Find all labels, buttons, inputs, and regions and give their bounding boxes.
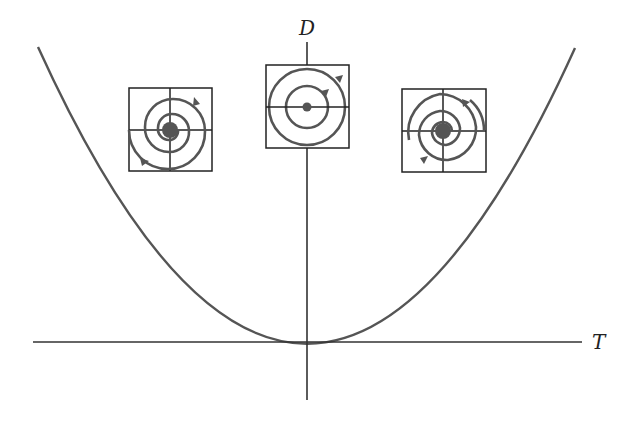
equilibrium-point-icon: [435, 123, 451, 139]
center-portrait: [266, 65, 349, 148]
spiral-sink-portrait: [129, 88, 212, 171]
spiral-source-portrait: [402, 89, 486, 172]
d-axis-label: D: [298, 16, 315, 40]
equilibrium-point-icon: [303, 103, 312, 112]
trace-determinant-diagram: D T: [0, 0, 640, 429]
t-axis-label: T: [592, 330, 607, 354]
equilibrium-point-icon: [162, 122, 178, 138]
